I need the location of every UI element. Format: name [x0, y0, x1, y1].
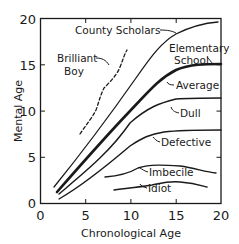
arrow-average	[167, 82, 174, 85]
mental-age-chart: 0 5 10 15 20 0 5 10 15 20 Chronological …	[0, 0, 239, 244]
annotation-labels: County Scholars Brilliant Boy Elementary…	[57, 24, 229, 194]
x-tick-0: 0	[36, 208, 44, 223]
y-tick-5: 5	[28, 150, 36, 165]
x-tick-10: 10	[123, 208, 140, 223]
arrow-county-scholars	[160, 30, 176, 33]
arrow-defective	[153, 137, 160, 142]
label-dull: Dull	[180, 107, 201, 119]
x-tick-5: 5	[82, 208, 90, 223]
label-imbecile: Imbecile	[149, 166, 194, 178]
arrow-dull	[171, 107, 179, 113]
y-tick-20: 20	[19, 12, 36, 27]
label-idiot: Idiot	[148, 182, 171, 194]
label-average: Average	[176, 79, 219, 91]
label-boy: Boy	[64, 65, 84, 77]
x-tick-labels: 0 5 10 15 20	[36, 208, 229, 223]
x-axis-label: Chronological Age	[81, 227, 181, 240]
label-county-scholars: County Scholars	[75, 24, 160, 36]
label-school: School	[174, 54, 209, 66]
y-tick-0: 0	[28, 196, 36, 211]
label-elementary: Elementary	[169, 42, 229, 54]
y-tick-15: 15	[19, 58, 36, 73]
arrow-imbecile	[140, 168, 148, 172]
y-axis-label: Mental Age	[12, 80, 25, 142]
x-tick-20: 20	[213, 208, 230, 223]
arrow-brilliant-boy	[96, 58, 109, 65]
label-defective: Defective	[161, 136, 211, 148]
label-brilliant: Brilliant	[57, 52, 97, 64]
x-tick-15: 15	[168, 208, 185, 223]
